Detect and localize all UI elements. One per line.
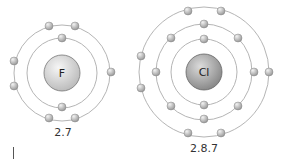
chlorine-atom: Cl <box>137 7 273 137</box>
electron <box>234 102 242 110</box>
fluorine-atom: F <box>10 22 115 122</box>
electron <box>107 68 115 76</box>
atom-diagram: F Cl <box>0 0 282 161</box>
electron <box>152 68 160 76</box>
electron <box>200 20 208 28</box>
fluorine-configuration-label: 2.7 <box>54 126 72 139</box>
electron <box>200 35 208 43</box>
electron <box>71 22 79 30</box>
electron <box>137 84 145 92</box>
electron <box>184 7 192 15</box>
electron <box>58 34 66 42</box>
electron <box>71 114 79 122</box>
element-symbol: Cl <box>199 66 210 79</box>
electron <box>234 34 242 42</box>
electron <box>200 115 208 123</box>
electron <box>250 68 258 76</box>
electron <box>45 22 53 30</box>
text-cursor <box>13 147 14 159</box>
electron <box>167 102 175 110</box>
electron <box>137 52 145 60</box>
electron <box>58 103 66 111</box>
electron <box>217 129 225 137</box>
electron <box>45 114 53 122</box>
electron <box>167 34 175 42</box>
electron <box>200 101 208 109</box>
electron <box>10 57 18 65</box>
chlorine-configuration-label: 2.8.7 <box>190 142 218 155</box>
element-symbol: F <box>59 67 65 80</box>
electron <box>265 68 273 76</box>
electron <box>217 7 225 15</box>
electron <box>184 129 192 137</box>
electron <box>10 82 18 90</box>
